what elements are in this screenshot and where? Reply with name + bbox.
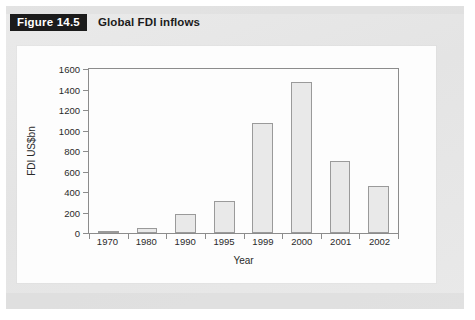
x-tick-label: 1980 — [127, 236, 166, 247]
bar-slot — [244, 69, 283, 233]
bar-2002 — [368, 186, 389, 233]
y-tick-mark — [83, 213, 89, 214]
chart-panel: FDI US$bn 02004006008001000120014001600 … — [17, 46, 436, 283]
bar-slot — [205, 69, 244, 233]
y-tick-label: 400 — [64, 187, 80, 198]
bar-1999 — [252, 123, 273, 233]
y-tick-label: 600 — [64, 166, 80, 177]
y-tick-label: 1400 — [59, 84, 80, 95]
y-tick-label: 1600 — [59, 64, 80, 75]
bar-slot — [128, 69, 167, 233]
x-tick-label: 1990 — [166, 236, 205, 247]
bar-1995 — [214, 201, 235, 233]
y-tick-mark — [83, 90, 89, 91]
y-tick-mark — [83, 151, 89, 152]
y-tick-label: 0 — [75, 228, 80, 239]
figure-number-badge: Figure 14.5 — [10, 14, 87, 31]
x-tick-label: 2002 — [360, 236, 399, 247]
y-tick-mark — [83, 69, 89, 70]
x-tick-label: 1970 — [88, 236, 127, 247]
y-tick-label: 1000 — [59, 125, 80, 136]
y-tick-mark — [83, 192, 89, 193]
bar-1970 — [98, 231, 119, 233]
y-tick-mark — [83, 172, 89, 173]
y-tick-mark — [83, 131, 89, 132]
x-tick-label: 1995 — [205, 236, 244, 247]
bar-slot — [166, 69, 205, 233]
x-axis-title: Year — [88, 255, 399, 266]
figure-title: Global FDI inflows — [98, 16, 200, 28]
x-tick-label: 2001 — [321, 236, 360, 247]
plot-area: 02004006008001000120014001600 — [88, 68, 399, 234]
bar-series — [89, 69, 398, 233]
bar-slot — [282, 69, 321, 233]
bar-2001 — [330, 161, 351, 233]
bar-slot — [89, 69, 128, 233]
bar-2000 — [291, 82, 312, 233]
figure-page: Figure 14.5 Global FDI inflows FDI US$bn… — [0, 0, 475, 320]
y-axis-title: FDI US$bn — [26, 126, 37, 175]
y-tick-mark — [83, 110, 89, 111]
x-tick-label: 1999 — [244, 236, 283, 247]
y-tick-label: 800 — [64, 146, 80, 157]
y-tick-label: 1200 — [59, 105, 80, 116]
x-tick-label: 2000 — [282, 236, 321, 247]
bar-slot — [359, 69, 398, 233]
y-tick-label: 200 — [64, 207, 80, 218]
bar-slot — [321, 69, 360, 233]
bar-1980 — [137, 228, 158, 233]
bar-chart: FDI US$bn 02004006008001000120014001600 … — [17, 46, 436, 283]
x-axis-labels: 19701980199019951999200020012002 — [88, 236, 399, 247]
bar-1990 — [175, 214, 196, 233]
figure-caption: Figure 14.5 Global FDI inflows — [10, 13, 200, 31]
page-shade-bottom — [6, 293, 464, 309]
